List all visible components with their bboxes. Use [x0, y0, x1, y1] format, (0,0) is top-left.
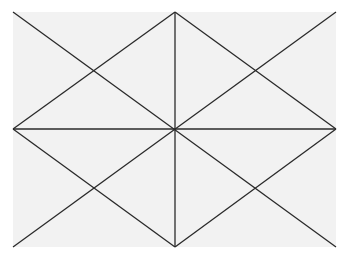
fold-lines [13, 12, 336, 247]
folded-paper-diagram [0, 0, 344, 258]
